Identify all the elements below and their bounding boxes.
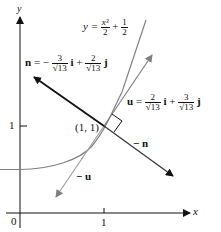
vector-u-equation: u = 2√13 i + 3√13 j bbox=[127, 93, 201, 112]
curve bbox=[0, 20, 146, 170]
y-axis-label: y bbox=[17, 3, 21, 14]
vector-n bbox=[34, 77, 104, 126]
x-tick-label: 1 bbox=[101, 216, 107, 228]
neg-n-label: − n bbox=[133, 137, 148, 149]
point-label: (1, 1) bbox=[75, 121, 99, 133]
origin-label: 0 bbox=[11, 215, 17, 227]
y-tick-label: 1 bbox=[9, 119, 15, 131]
vector-n-equation: n = − 3√13 i + 2√13 j bbox=[25, 54, 108, 73]
vector-neg-u bbox=[56, 126, 104, 197]
vector-u bbox=[104, 55, 152, 126]
vector-neg-n bbox=[104, 126, 173, 176]
neg-u-label: − u bbox=[76, 170, 91, 182]
right-angle-marker bbox=[112, 114, 122, 132]
x-axis-label: x bbox=[193, 205, 198, 217]
curve-equation: y = x³2 + 12 bbox=[83, 18, 128, 37]
